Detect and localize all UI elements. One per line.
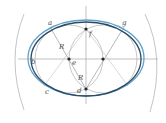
oval-construction-diagram: a b c d e f g R R (0, 0, 166, 123)
left-construction-arc (15, 14, 24, 110)
label-radius-upper: R (58, 43, 65, 51)
right-construction-arc (145, 14, 157, 112)
label-radius-lower: R (77, 74, 84, 82)
radius-line-e2-f (86, 29, 128, 86)
point-d (84, 87, 87, 90)
point-e (67, 57, 70, 60)
label-b: b (31, 58, 36, 66)
label-e: e (72, 59, 76, 67)
label-c: c (45, 88, 49, 96)
label-g: g (122, 19, 127, 27)
point-e2 (101, 57, 104, 60)
label-d: d (77, 87, 82, 95)
point-f (84, 27, 87, 30)
label-a: a (48, 19, 52, 27)
